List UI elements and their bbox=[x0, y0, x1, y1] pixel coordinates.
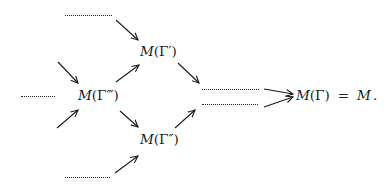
m-symbol: M bbox=[140, 43, 154, 59]
arrow-upper-left-to-m-gamma-triple bbox=[58, 62, 78, 83]
m-symbol: M bbox=[140, 131, 154, 147]
equals-sign: = bbox=[338, 87, 349, 103]
arrow-m-gamma-double-to-right bbox=[175, 110, 195, 128]
arrow-m-gamma-triple-to-m-gamma-double bbox=[120, 111, 138, 127]
arrow-right-lower-to-m-gamma bbox=[264, 97, 293, 107]
arrow-lower-left-to-m-gamma-triple bbox=[57, 110, 78, 128]
node-m-gamma-triple-prime: M(Γ‴) bbox=[78, 89, 119, 103]
arrow-right-upper-to-m-gamma bbox=[264, 89, 293, 94]
arrow-bottom-to-m-gamma-double bbox=[115, 156, 138, 173]
node-m-gamma-prime: M(Γ′) bbox=[140, 45, 177, 59]
left-dots bbox=[21, 96, 55, 97]
gamma-prime-arg: (Γ′) bbox=[154, 43, 177, 59]
arrow-m-gamma-prime-to-right bbox=[178, 63, 199, 83]
right-lower-dots bbox=[202, 104, 258, 105]
m-symbol: M bbox=[78, 87, 92, 103]
bottom-dots bbox=[65, 177, 110, 178]
arrow-m-gamma-triple-to-m-gamma-prime bbox=[116, 65, 139, 82]
arrow-top-to-m-gamma-prime bbox=[116, 20, 138, 40]
top-dots bbox=[65, 15, 112, 16]
gamma-double-prime-arg: (Γ″) bbox=[154, 131, 179, 147]
m-symbol: M bbox=[296, 87, 310, 103]
period: . bbox=[373, 87, 377, 103]
commutative-diagram: M(Γ′) M(Γ‴) M(Γ″) M(Γ)=M. bbox=[0, 0, 387, 191]
gamma-triple-prime-arg: (Γ‴) bbox=[92, 87, 119, 103]
m-rhs: M bbox=[357, 87, 371, 103]
gamma-arg: (Γ) bbox=[310, 87, 330, 103]
node-m-gamma-double-prime: M(Γ″) bbox=[140, 133, 179, 147]
right-upper-dots bbox=[202, 89, 259, 90]
node-m-gamma-equals-m: M(Γ)=M. bbox=[296, 89, 377, 103]
